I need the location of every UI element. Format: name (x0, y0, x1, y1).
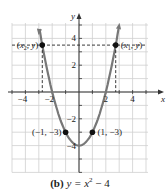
svg-text:y: y (70, 11, 75, 21)
svg-text:−4: −4 (66, 141, 76, 151)
svg-text:4: 4 (130, 94, 135, 104)
svg-text:−2: −2 (66, 114, 76, 124)
svg-text:(x2, y): (x2, y) (17, 40, 39, 51)
svg-text:x: x (160, 94, 165, 104)
svg-text:−4: −4 (18, 94, 28, 104)
svg-text:2: 2 (72, 60, 77, 70)
svg-text:−2: −2 (44, 94, 54, 104)
graph: −4−22442−2−4xy(x2, y)(x1, y)(−1, −3)(1, … (0, 0, 167, 195)
svg-text:4: 4 (72, 33, 77, 43)
axes (8, 13, 164, 172)
svg-text:2: 2 (104, 94, 109, 104)
caption: (b) y = x2 − 4 (0, 176, 160, 189)
svg-text:(1, −3): (1, −3) (97, 127, 122, 137)
svg-text:(−1, −3): (−1, −3) (32, 127, 62, 137)
svg-text:(x1, y): (x1, y) (121, 40, 143, 51)
